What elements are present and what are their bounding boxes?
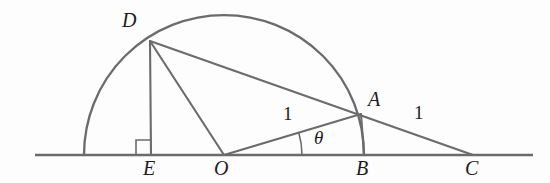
segment-d-e [150, 41, 151, 155]
length-label-oa: 1 [283, 104, 293, 123]
point-label-a: A [368, 89, 380, 109]
right-angle-marker [136, 140, 151, 155]
point-label-e: E [143, 158, 155, 178]
figure-canvas [0, 0, 550, 183]
point-label-c: C [465, 158, 478, 178]
length-label-ac: 1 [414, 103, 424, 122]
theta-angle-arc [299, 133, 302, 155]
point-label-o: O [214, 158, 228, 178]
angle-label-theta: θ [314, 128, 323, 147]
segment-d-c [150, 41, 473, 155]
segment-a-b [361, 114, 364, 155]
geometry-figure: D A E O B C 1 1 θ [0, 0, 550, 183]
point-label-b: B [356, 158, 368, 178]
segment-d-o [150, 41, 224, 155]
segment-o-a [224, 114, 361, 155]
point-label-d: D [122, 10, 136, 30]
